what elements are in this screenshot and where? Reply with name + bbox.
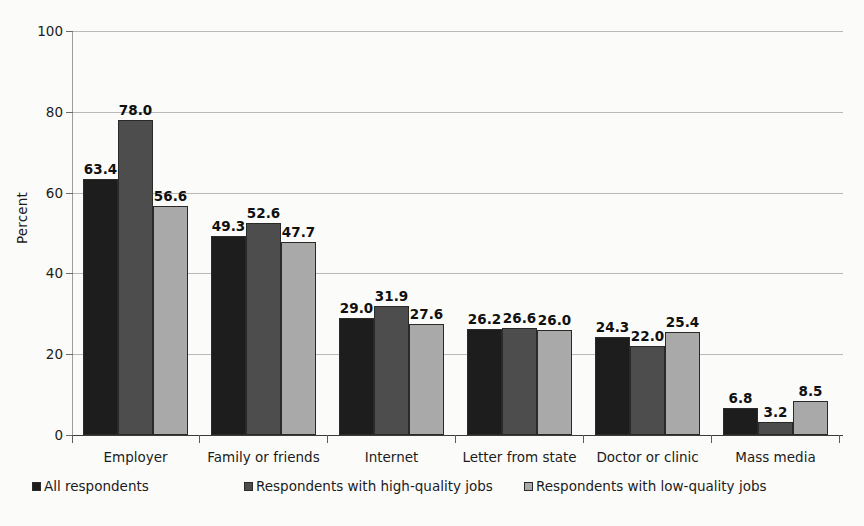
bar-group: 24.322.025.4	[595, 31, 700, 435]
y-tick-mark	[66, 31, 73, 32]
bar-group: 63.478.056.6	[83, 31, 188, 435]
bar[interactable]: 22.0	[630, 346, 665, 435]
legend-item[interactable]: Respondents with low-quality jobs	[524, 478, 767, 494]
bar-group: 6.83.28.5	[723, 31, 828, 435]
bar-value-label: 52.6	[247, 205, 280, 221]
bar-group: 49.352.647.7	[211, 31, 316, 435]
bar[interactable]: 49.3	[211, 236, 246, 435]
y-tick-label: 0	[54, 427, 63, 443]
y-tick-mark	[66, 112, 73, 113]
category-label: Doctor or clinic	[596, 449, 698, 465]
x-tick-mark	[455, 435, 456, 443]
bar[interactable]: 63.4	[83, 179, 118, 435]
bar-value-label: 56.6	[154, 188, 187, 204]
y-axis-line	[72, 31, 73, 435]
legend-swatch-icon	[244, 482, 253, 491]
category-label: Letter from state	[462, 449, 576, 465]
legend-item[interactable]: Respondents with high-quality jobs	[244, 478, 493, 494]
bar[interactable]: 26.0	[537, 330, 572, 435]
bar[interactable]: 47.7	[281, 242, 316, 435]
bar-value-label: 3.2	[764, 404, 788, 420]
bar[interactable]: 8.5	[793, 401, 828, 435]
legend-label: All respondents	[44, 478, 149, 494]
x-tick-mark	[839, 435, 840, 443]
bar-value-label: 29.0	[340, 300, 373, 316]
bar-value-label: 22.0	[631, 328, 664, 344]
bar[interactable]: 56.6	[153, 206, 188, 435]
category-label: Employer	[103, 449, 167, 465]
bar-value-label: 31.9	[375, 288, 408, 304]
y-tick-label: 20	[46, 346, 63, 362]
bar[interactable]: 27.6	[409, 324, 444, 436]
bar[interactable]: 25.4	[665, 332, 700, 435]
bar-value-label: 6.8	[729, 390, 753, 406]
bar[interactable]: 52.6	[246, 223, 281, 436]
y-tick-mark	[66, 354, 73, 355]
y-axis-title: Percent	[14, 178, 30, 258]
category-label: Internet	[365, 449, 419, 465]
y-tick-label: 80	[46, 104, 63, 120]
bar[interactable]: 3.2	[758, 422, 793, 435]
bar[interactable]: 78.0	[118, 120, 153, 435]
bar-group: 26.226.626.0	[467, 31, 572, 435]
legend-swatch-icon	[524, 482, 533, 491]
y-tick-mark	[66, 273, 73, 274]
plot-area: 020406080100 63.478.056.649.352.647.729.…	[72, 31, 843, 435]
category-label: Mass media	[735, 449, 815, 465]
bar[interactable]: 29.0	[339, 318, 374, 435]
y-tick-mark	[66, 193, 73, 194]
bar-value-label: 26.6	[503, 310, 536, 326]
y-tick-label: 40	[46, 265, 63, 281]
bar-value-label: 25.4	[666, 314, 699, 330]
bar-value-label: 8.5	[799, 383, 823, 399]
bar[interactable]: 26.6	[502, 328, 537, 435]
x-tick-mark	[72, 435, 73, 443]
bar[interactable]: 26.2	[467, 329, 502, 435]
bar[interactable]: 31.9	[374, 306, 409, 435]
legend-swatch-icon	[32, 482, 41, 491]
chart-legend: All respondentsRespondents with high-qua…	[22, 478, 842, 500]
x-tick-mark	[711, 435, 712, 443]
x-tick-mark	[199, 435, 200, 443]
bar-group: 29.031.927.6	[339, 31, 444, 435]
bar-value-label: 47.7	[282, 224, 315, 240]
bar-chart: Percent 020406080100 63.478.056.649.352.…	[0, 0, 864, 526]
legend-label: Respondents with high-quality jobs	[256, 478, 493, 494]
bar-value-label: 63.4	[84, 161, 117, 177]
x-tick-mark	[327, 435, 328, 443]
bar-value-label: 26.2	[468, 311, 501, 327]
category-label: Family or friends	[207, 449, 319, 465]
bar-value-label: 27.6	[410, 306, 443, 322]
bar[interactable]: 6.8	[723, 408, 758, 435]
bar-value-label: 78.0	[119, 102, 152, 118]
x-tick-mark	[583, 435, 584, 443]
bar-value-label: 49.3	[212, 218, 245, 234]
legend-label: Respondents with low-quality jobs	[536, 478, 767, 494]
legend-item[interactable]: All respondents	[32, 478, 149, 494]
gridline	[72, 435, 843, 436]
bar-value-label: 26.0	[538, 312, 571, 328]
y-tick-label: 60	[46, 185, 63, 201]
bar[interactable]: 24.3	[595, 337, 630, 435]
bar-value-label: 24.3	[596, 319, 629, 335]
y-tick-label: 100	[37, 23, 63, 39]
